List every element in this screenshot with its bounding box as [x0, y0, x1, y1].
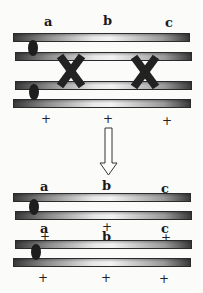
centromere-icon: [28, 40, 38, 56]
chromatid-4: [13, 99, 191, 108]
chromatid-2: [15, 52, 192, 61]
wildtype-plus-c-bottom: +: [159, 273, 169, 285]
wildtype-plus-a: +: [41, 113, 51, 125]
wildtype-plus-a-bottom: +: [38, 272, 48, 284]
centromere-icon: [29, 199, 39, 215]
down-arrow-icon: [99, 127, 119, 177]
chromatid-1: [13, 33, 190, 42]
wildtype-plus-b-bottom: +: [101, 272, 111, 284]
chromatid-7: [15, 240, 192, 249]
crossover-x-icon: [56, 53, 86, 89]
crossover-x-icon: [130, 54, 160, 90]
gene-label-a-top: a: [44, 15, 52, 28]
chromatid-3: [15, 81, 192, 90]
gene-label-a-pair1: a: [40, 180, 48, 193]
centromere-icon: [31, 244, 41, 260]
gene-label-c-top: c: [165, 16, 173, 29]
wildtype-plus-b: +: [103, 113, 113, 125]
centromere-icon: [29, 84, 39, 100]
chromatid-8: [13, 258, 191, 267]
chromatid-6: [15, 211, 192, 220]
gene-label-b-top: b: [103, 14, 112, 27]
gene-label-b-pair1: b: [102, 179, 111, 192]
chromatid-5: [13, 193, 191, 202]
wildtype-plus-c: +: [162, 115, 172, 127]
